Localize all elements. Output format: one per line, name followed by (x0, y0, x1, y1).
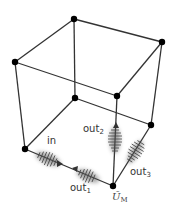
wave-packet-out3 (124, 139, 147, 165)
edge (151, 42, 162, 125)
edge (117, 42, 162, 96)
vertex (12, 59, 18, 65)
label-out1: out1 (70, 183, 91, 195)
label-out2: out2 (83, 124, 104, 136)
arrow-icon (57, 160, 63, 167)
wave-packet-out2 (108, 122, 122, 153)
wave-packet-in (34, 149, 63, 169)
edge (15, 62, 25, 149)
label-unitary-m: ŨM (112, 192, 128, 204)
label-in: in (47, 136, 56, 146)
vertex (159, 39, 165, 45)
edge (74, 19, 162, 42)
edge (74, 19, 75, 98)
vertex (22, 146, 28, 152)
label-out3: out3 (130, 167, 151, 179)
vertex (114, 93, 120, 99)
edge (75, 98, 151, 125)
edge (15, 62, 117, 96)
vertex (110, 183, 116, 189)
vertex (72, 95, 78, 101)
edge (15, 19, 74, 62)
arrow-icon (113, 122, 119, 128)
vertex (71, 16, 77, 22)
vertex (148, 122, 154, 128)
cube-edges (15, 19, 162, 186)
